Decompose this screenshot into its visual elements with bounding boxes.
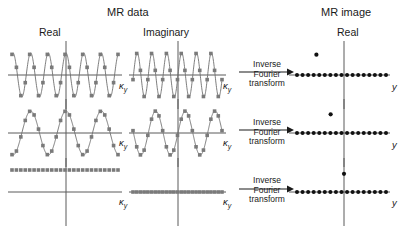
image-baseline-dot xyxy=(306,131,310,135)
transform-arrow-head xyxy=(287,186,294,193)
image-baseline-dot xyxy=(323,190,327,194)
kspace-sample-marker xyxy=(116,168,120,172)
image-baseline-dot xyxy=(362,73,366,77)
kspace-sample-marker xyxy=(194,52,198,56)
kspace-sample-marker xyxy=(198,153,202,157)
kspace-sample-marker xyxy=(32,113,36,117)
kspace-sample-marker xyxy=(131,78,135,82)
kspace-sample-marker xyxy=(157,95,161,99)
image-baseline-dot xyxy=(356,131,360,135)
kspace-sample-marker xyxy=(150,190,154,194)
kspace-sample-marker xyxy=(99,53,103,57)
image-baseline-dot xyxy=(295,190,299,194)
kspace-sample-marker xyxy=(59,119,63,123)
kspace-sample-marker xyxy=(176,190,180,194)
kspace-sample-marker xyxy=(99,110,103,114)
kspace-sample-marker xyxy=(63,168,67,172)
image-baseline-dot xyxy=(340,190,344,194)
image-baseline-dot xyxy=(328,73,332,77)
image-baseline-dot xyxy=(384,131,388,135)
kspace-sample-marker xyxy=(41,81,45,85)
kspace-sample-marker xyxy=(46,168,50,172)
kspace-sample-marker xyxy=(37,168,41,172)
kspace-sample-marker xyxy=(59,168,63,172)
kspace-sample-marker xyxy=(213,109,217,113)
kspace-sample-marker xyxy=(116,153,120,157)
kspace-sample-marker xyxy=(165,145,169,149)
kspace-sample-marker xyxy=(157,190,161,194)
kspace-sample-marker xyxy=(220,190,224,194)
image-baseline-dot xyxy=(345,73,349,77)
kspace-sample-marker xyxy=(191,78,195,82)
image-baseline-dot xyxy=(362,131,366,135)
kspace-sample-marker xyxy=(103,113,107,117)
kspace-sample-marker xyxy=(191,190,195,194)
kspace-sample-marker xyxy=(139,190,143,194)
kspace-sample-marker xyxy=(220,78,224,82)
kspace-sample-marker xyxy=(176,78,180,82)
kspace-sample-marker xyxy=(135,190,139,194)
kspace-sample-marker xyxy=(23,168,27,172)
kspace-sample-marker xyxy=(139,69,143,73)
kspace-sample-marker xyxy=(116,53,120,57)
kspace-sample-marker xyxy=(187,114,191,118)
image-baseline-dot xyxy=(301,131,305,135)
kspace-sample-marker xyxy=(28,110,32,114)
transform-arrow-head xyxy=(287,69,294,76)
kspace-sample-marker xyxy=(23,81,27,85)
kspace-sample-marker xyxy=(150,117,154,121)
kspace-sample-marker xyxy=(135,145,139,149)
kspace-sample-marker xyxy=(23,119,27,123)
image-baseline-dot xyxy=(323,73,327,77)
image-baseline-dot xyxy=(367,190,371,194)
kspace-sample-marker xyxy=(81,168,85,172)
kspace-sample-marker xyxy=(10,168,14,172)
kspace-sample-marker xyxy=(205,134,209,138)
kspace-sample-marker xyxy=(76,81,80,85)
kspace-sample-marker xyxy=(216,114,220,118)
kspace-sample-marker xyxy=(153,190,157,194)
diagram-graphics xyxy=(0,0,414,251)
kspace-sample-marker xyxy=(142,95,146,99)
kspace-sample-marker xyxy=(194,145,198,149)
kspace-sample-marker xyxy=(146,134,150,138)
kspace-sample-marker xyxy=(37,127,41,131)
kspace-sample-marker xyxy=(15,168,19,172)
image-baseline-dot xyxy=(301,73,305,77)
kspace-sample-marker xyxy=(68,168,72,172)
kspace-sample-marker xyxy=(165,52,169,56)
image-baseline-dot xyxy=(378,190,382,194)
kspace-sample-marker xyxy=(172,190,176,194)
kspace-sample-marker xyxy=(168,190,172,194)
kspace-sample-marker xyxy=(15,149,19,153)
kspace-sample-marker xyxy=(131,129,135,133)
image-baseline-dot xyxy=(328,131,332,135)
kspace-sample-marker xyxy=(107,168,111,172)
kspace-sample-marker xyxy=(94,81,98,85)
kspace-sample-marker xyxy=(54,135,58,139)
kspace-sample-marker xyxy=(135,52,139,56)
image-baseline-dot xyxy=(356,190,360,194)
kspace-sample-marker xyxy=(202,148,206,152)
kspace-sample-marker xyxy=(168,153,172,157)
kspace-sample-marker xyxy=(76,168,80,172)
kspace-sample-marker xyxy=(172,95,176,99)
image-baseline-dot xyxy=(312,131,316,135)
kspace-sample-marker xyxy=(32,66,36,70)
kspace-sample-marker xyxy=(59,81,63,85)
kspace-sample-marker xyxy=(142,190,146,194)
kspace-sample-marker xyxy=(216,95,220,99)
image-baseline-dot xyxy=(373,131,377,135)
kspace-sample-marker xyxy=(103,168,107,172)
image-baseline-dot xyxy=(323,131,327,135)
image-baseline-dot xyxy=(295,131,299,135)
kspace-sample-marker xyxy=(54,94,58,98)
kspace-sample-marker xyxy=(72,127,76,131)
kspace-sample-marker xyxy=(10,153,14,157)
figure-root: MR data MR image Real Imaginary Real κy … xyxy=(0,0,414,251)
kspace-sample-marker xyxy=(50,168,54,172)
kspace-sample-marker xyxy=(213,69,217,73)
kspace-sample-marker xyxy=(176,134,180,138)
kspace-sample-marker xyxy=(198,69,202,73)
image-baseline-dot xyxy=(340,73,344,77)
